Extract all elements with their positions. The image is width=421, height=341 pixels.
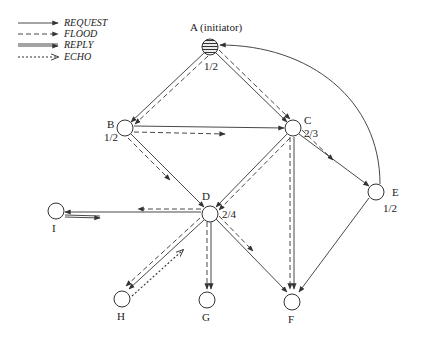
edge-i-d-reply-b	[65, 217, 100, 218]
edge-c-e-request	[299, 134, 369, 186]
edge-a-c-request	[216, 53, 287, 122]
edge-d-f-request	[216, 219, 287, 292]
node-h[interactable]	[114, 291, 130, 307]
node-c[interactable]	[285, 120, 301, 136]
edge-b-d-request	[131, 134, 204, 207]
edge-a-b-flood	[135, 56, 208, 124]
edge-b-c-flood	[134, 132, 225, 134]
edge-d-h-request	[129, 220, 204, 289]
node-e[interactable]	[368, 184, 384, 200]
node-f-label: F	[288, 313, 294, 325]
edge-e-a-request	[220, 45, 380, 184]
node-i-label: I	[52, 222, 56, 234]
node-f[interactable]	[284, 294, 300, 310]
node-b-label: B	[107, 118, 114, 130]
legend-request-label: REQUEST	[63, 17, 109, 28]
node-b-value: 1/2	[104, 131, 118, 143]
node-a-value: 1/2	[204, 60, 218, 72]
edge-c-d-flood	[219, 138, 290, 210]
node-g[interactable]	[199, 292, 215, 308]
edge-a-b-request	[131, 53, 204, 122]
message-flow-diagram: REQUEST FLOOD REPLY ECHO	[0, 0, 421, 341]
node-c-value: 2/3	[304, 127, 319, 139]
edge-c-d-request	[216, 134, 287, 207]
legend-flood-label: FLOOD	[63, 28, 98, 39]
legend-echo-label: ECHO	[63, 51, 91, 62]
node-e-label: E	[392, 186, 399, 198]
edge-d-f-flood	[219, 216, 253, 251]
edge-a-c-flood	[219, 50, 290, 119]
edge-i-d-reply-a	[65, 215, 100, 216]
node-d-value: 2/4	[222, 208, 237, 220]
node-d-label: D	[202, 190, 210, 202]
node-e-value: 1/2	[383, 202, 397, 214]
node-d[interactable]	[202, 206, 218, 222]
node-a[interactable]	[202, 39, 218, 55]
edge-e-f-request	[299, 198, 369, 292]
node-a-label: A (initiator)	[190, 21, 243, 34]
legend: REQUEST FLOOD REPLY ECHO	[18, 17, 109, 62]
node-h-label: H	[117, 310, 125, 322]
edge-b-c-request	[134, 126, 284, 128]
edges	[65, 45, 380, 296]
node-i[interactable]	[48, 203, 64, 219]
node-c-label: C	[304, 114, 311, 126]
edge-d-h-flood	[126, 218, 200, 286]
legend-reply-label: REPLY	[63, 39, 95, 50]
edge-b-d-flood	[128, 138, 170, 180]
nodes: A (initiator) 1/2 B 1/2 C 2/3 D 2/4 E 1/…	[48, 21, 399, 325]
node-g-label: G	[202, 311, 210, 323]
node-b[interactable]	[117, 120, 133, 136]
